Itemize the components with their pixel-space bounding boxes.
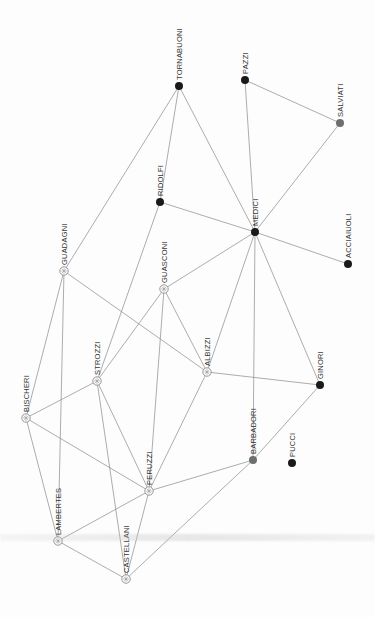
edge-ridolfi-medici	[160, 202, 255, 232]
edge-salviati-medici	[255, 123, 340, 232]
node-label-ridolfi: RIDOLFI	[156, 165, 165, 196]
edge-guasconi-albizzi	[164, 289, 207, 372]
node-marker-icon	[175, 82, 183, 90]
node-marker-icon	[249, 456, 257, 464]
network-diagram: TORNABUONIPAZZISALVIATIRIDOLFIMEDICIACCI…	[0, 0, 375, 617]
edge-albizzi-peruzzi	[149, 372, 207, 491]
node-marker-icon	[251, 228, 259, 236]
edge-bischeri-peruzzi	[26, 418, 149, 491]
node-label-pazzi: PAZZI	[241, 52, 250, 74]
node-bischeri: BISCHERI	[22, 375, 31, 422]
node-albizzi: ALBIZZI	[203, 337, 212, 376]
node-label-tornabuoni: TORNABUONI	[175, 28, 184, 80]
node-layer: TORNABUONIPAZZISALVIATIRIDOLFIMEDICIACCI…	[22, 28, 353, 583]
edge-guadagni-albizzi	[64, 271, 207, 372]
edge-medici-guasconi	[164, 232, 255, 289]
edge-medici-ginori	[255, 232, 320, 385]
node-strozzi: STROZZI	[93, 342, 102, 386]
node-label-strozzi: STROZZI	[93, 342, 102, 375]
node-label-ginori: GINORI	[316, 351, 325, 379]
edge-lambertes-castellani	[58, 541, 126, 579]
node-label-guadagni: GUADAGNI	[60, 223, 69, 265]
node-label-albizzi: ALBIZZI	[203, 337, 212, 366]
edge-medici-acciaiuoli	[255, 232, 348, 264]
node-pucci: PUCCI	[288, 433, 297, 467]
node-acciaiuoli: ACCIAIUOLI	[344, 213, 353, 268]
edge-tornabuoni-medici	[179, 86, 255, 232]
node-medici: MEDICI	[251, 199, 260, 236]
node-ridolfi: RIDOLFI	[156, 165, 165, 206]
scan-artifact-band	[0, 534, 375, 541]
node-marker-icon	[241, 76, 249, 84]
edge-layer	[26, 80, 348, 579]
node-label-medici: MEDICI	[251, 199, 260, 226]
node-label-salviati: SALVIATI	[336, 84, 345, 117]
graph-canvas: TORNABUONIPAZZISALVIATIRIDOLFIMEDICIACCI…	[0, 0, 375, 617]
node-guadagni: GUADAGNI	[60, 223, 69, 275]
node-tornabuoni: TORNABUONI	[175, 28, 184, 90]
edge-medici-albizzi	[207, 232, 255, 372]
edge-ginori-barbadori	[253, 385, 320, 460]
edge-barbadori-peruzzi	[149, 460, 253, 491]
node-salviati: SALVIATI	[336, 84, 345, 127]
node-marker-icon	[288, 459, 296, 467]
edge-ridolfi-strozzi	[97, 202, 160, 381]
node-marker-icon	[344, 260, 352, 268]
node-label-castellani: CASTELLANI	[122, 525, 131, 573]
node-guasconi: GUASCONI	[160, 241, 169, 293]
node-marker-icon	[156, 198, 164, 206]
node-label-acciaiuoli: ACCIAIUOLI	[344, 213, 353, 258]
node-pazzi: PAZZI	[241, 52, 250, 84]
node-label-barbadori: BARBADORI	[249, 408, 258, 454]
edge-guasconi-strozzi	[97, 289, 164, 381]
node-label-guasconi: GUASCONI	[160, 241, 169, 283]
node-marker-icon	[316, 381, 324, 389]
node-label-bischeri: BISCHERI	[22, 375, 31, 412]
node-ginori: GINORI	[316, 351, 325, 389]
edge-guadagni-bischeri	[26, 271, 64, 418]
edge-albizzi-ginori	[207, 372, 320, 385]
node-peruzzi: PERUZZI	[145, 452, 154, 496]
node-marker-icon	[336, 119, 344, 127]
node-label-lambertes: LAMBERTES	[54, 488, 63, 535]
edge-pazzi-salviati	[245, 80, 340, 123]
node-label-pucci: PUCCI	[288, 433, 297, 457]
node-label-peruzzi: PERUZZI	[145, 452, 154, 485]
